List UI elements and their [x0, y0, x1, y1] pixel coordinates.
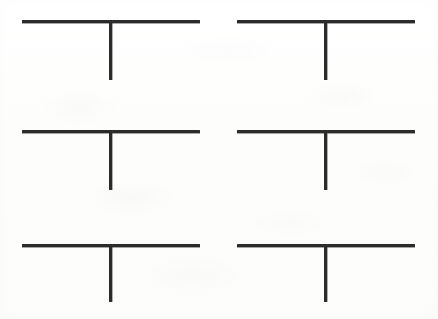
- page-edge-shading: [0, 0, 438, 319]
- figure-sheet: [0, 0, 438, 319]
- vertical-stem: [109, 20, 112, 80]
- vertical-stem: [324, 20, 327, 80]
- vertical-stem: [324, 244, 327, 302]
- vertical-stem: [109, 244, 112, 302]
- paper-texture: [0, 0, 438, 319]
- vertical-stem: [324, 130, 327, 190]
- vertical-stem: [109, 130, 112, 190]
